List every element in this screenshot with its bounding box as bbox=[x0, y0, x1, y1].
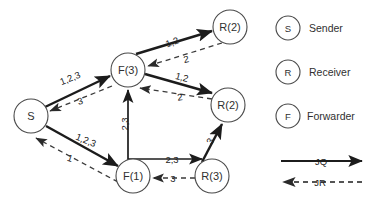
node-label: R(2) bbox=[217, 99, 238, 111]
edge-r3-to-r2mid: 3 bbox=[202, 124, 222, 162]
edge-f1-to-f3: 2,3 bbox=[119, 90, 130, 160]
edge-label: 2,3 bbox=[165, 154, 178, 165]
node-r3[interactable]: R(3) bbox=[195, 159, 229, 193]
node-r2-top[interactable]: R(2) bbox=[213, 10, 247, 44]
node-label: F(1) bbox=[123, 170, 143, 182]
edge-label: 2,3 bbox=[119, 117, 130, 130]
legend-label-forwarder: Forwarder bbox=[307, 110, 355, 122]
node-label: R(3) bbox=[201, 170, 222, 182]
legend-symbol-r: R bbox=[285, 67, 292, 78]
nodes-layer: S F(3) F(1) R(3) R(2) R(2) bbox=[14, 10, 247, 193]
legend-item-forwarder: F Forwarder bbox=[276, 104, 355, 128]
node-f3[interactable]: F(3) bbox=[111, 53, 145, 87]
node-label: F(3) bbox=[118, 64, 138, 76]
legend-label-jq: JQ bbox=[315, 156, 327, 167]
edge-label: 3 bbox=[170, 173, 175, 184]
legend-item-jq: JQ bbox=[281, 156, 362, 167]
edge-label: 2 bbox=[182, 53, 189, 65]
node-label: R(2) bbox=[219, 21, 240, 33]
node-s[interactable]: S bbox=[14, 99, 48, 133]
edge-s-to-f1: 1,2,3 bbox=[46, 126, 118, 166]
edge-label: 3 bbox=[76, 95, 84, 107]
node-f1[interactable]: F(1) bbox=[116, 159, 150, 193]
edge-label: 2 bbox=[177, 91, 184, 103]
legend-label-receiver: Receiver bbox=[309, 66, 351, 78]
edge-label: 1,2 bbox=[164, 35, 180, 50]
edge-r3-to-f1: 3 bbox=[153, 173, 195, 184]
legend-item-jr: JR bbox=[283, 177, 362, 188]
edge-f3-to-r2top: 1,2 bbox=[136, 31, 212, 54]
legend-item-sender: S Sender bbox=[276, 16, 343, 40]
edge-f3-to-r2mid: 1,2 bbox=[145, 70, 212, 93]
legend-symbol-s: S bbox=[285, 23, 291, 34]
legend: S Sender R Receiver F Forwarder JQ JR bbox=[276, 16, 362, 188]
node-r2-mid[interactable]: R(2) bbox=[211, 88, 245, 122]
node-label: S bbox=[27, 110, 34, 122]
edge-label: 1,2,3 bbox=[74, 131, 98, 149]
network-diagram: 1,2,3 3 1,2,3 1 2,3 bbox=[0, 0, 375, 206]
legend-label-jr: JR bbox=[314, 177, 326, 188]
legend-label-sender: Sender bbox=[309, 22, 343, 34]
legend-symbol-f: F bbox=[285, 111, 291, 122]
legend-item-receiver: R Receiver bbox=[276, 60, 351, 84]
diagram-page: 1,2,3 3 1,2,3 1 2,3 bbox=[0, 0, 375, 206]
edge-label: 1,2,3 bbox=[58, 69, 82, 87]
edge-label: 1 bbox=[66, 152, 74, 164]
